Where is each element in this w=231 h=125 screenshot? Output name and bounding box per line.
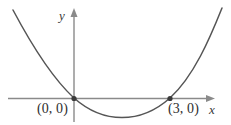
parabola-figure: y x (0, 0) (3, 0) (0, 0, 231, 125)
origin-point-marker (71, 96, 76, 101)
x-axis-arrowhead (206, 95, 215, 102)
origin-point-label: (0, 0) (37, 102, 68, 116)
x-axis-label: x (209, 103, 215, 116)
y-axis-arrowhead (71, 8, 78, 17)
y-axis-label: y (59, 9, 65, 22)
root-point-label: (3, 0) (168, 102, 199, 116)
